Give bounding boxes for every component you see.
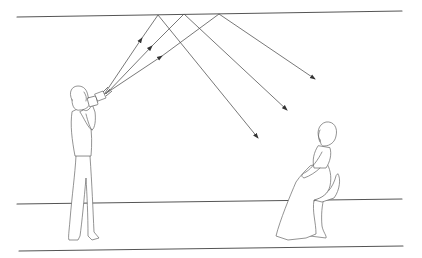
floor-front-line — [19, 246, 403, 251]
bounce-flash-diagram — [0, 0, 422, 258]
seated-subject-figure — [276, 122, 340, 240]
photographer-figure — [69, 86, 112, 240]
flash-rays — [103, 14, 315, 138]
ceiling-line — [17, 11, 402, 17]
